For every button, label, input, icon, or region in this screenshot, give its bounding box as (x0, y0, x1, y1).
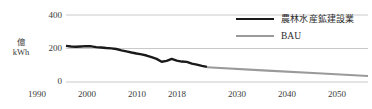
x-tick-label-2018: 2018 (157, 89, 197, 99)
legend-label-bau: BAU (281, 31, 301, 41)
x-tick-label-2040: 2040 (267, 89, 307, 99)
legend-swatch-main-icon (236, 18, 274, 20)
legend-item-bau[interactable]: BAU (236, 28, 355, 43)
legend-item-main[interactable]: 農林水産鉱建設業 (236, 11, 355, 26)
chart-legend: 農林水産鉱建設業 BAU (236, 11, 355, 45)
x-tick-label-2030: 2030 (217, 89, 257, 99)
legend-swatch-bau-icon (236, 35, 274, 37)
x-tick-label-1990: 1990 (17, 89, 57, 99)
x-tick-label-2050: 2050 (317, 89, 357, 99)
chart-figure: 億 kWh 400 200 0 農林水産鉱建設業 BAU 1990 2000 2… (0, 0, 372, 109)
series-line-bau (207, 67, 368, 76)
x-tick-label-2000: 2000 (67, 89, 107, 99)
x-tick-label-2010: 2010 (117, 89, 157, 99)
legend-label-main: 農林水産鉱建設業 (281, 12, 355, 25)
